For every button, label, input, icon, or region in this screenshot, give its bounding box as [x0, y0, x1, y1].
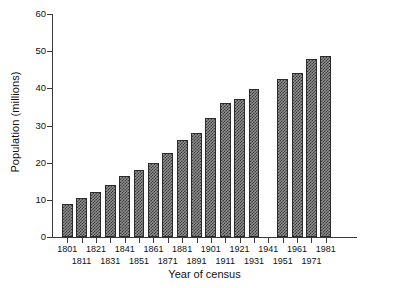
y-tick-label-40: 40 — [20, 83, 46, 92]
bar-1871 — [162, 153, 173, 237]
x-tick-1821 — [96, 238, 97, 243]
bar-1801 — [62, 204, 73, 237]
y-tick-label-0: 0 — [20, 232, 46, 241]
x-tick-1921 — [240, 238, 241, 243]
x-tick-1901 — [211, 238, 212, 243]
bar-1861 — [148, 163, 159, 237]
y-tick-label-30: 30 — [20, 121, 46, 130]
y-tick-label-50: 50 — [20, 46, 46, 55]
x-tick-1941 — [268, 238, 269, 243]
bar-1811 — [76, 198, 87, 237]
bar-1951 — [277, 79, 288, 237]
x-tick-1961 — [297, 238, 298, 243]
bar-1821 — [90, 192, 101, 237]
x-tick-1861 — [153, 238, 154, 243]
y-axis-line — [52, 14, 53, 238]
x-tick-1891 — [197, 238, 198, 243]
x-tick-1811 — [82, 238, 83, 243]
bar-1921 — [234, 99, 245, 237]
bar-1901 — [205, 118, 216, 237]
bar-chart: Population (millions) 0102030405060 1801… — [0, 0, 400, 288]
x-tick-1871 — [168, 238, 169, 243]
y-tick-40 — [47, 88, 52, 89]
x-tick-1841 — [125, 238, 126, 243]
x-tick-label-1971: 1971 — [294, 257, 328, 266]
x-tick-1851 — [139, 238, 140, 243]
bar-1851 — [134, 170, 145, 237]
x-axis-title: Year of census — [52, 268, 357, 280]
x-tick-1971 — [311, 238, 312, 243]
x-tick-1831 — [110, 238, 111, 243]
bar-1881 — [177, 140, 188, 237]
y-tick-label-20: 20 — [20, 158, 46, 167]
plot-area: 0102030405060 18011811182118311841185118… — [52, 14, 357, 238]
y-tick-20 — [47, 163, 52, 164]
bar-1831 — [105, 185, 116, 237]
x-tick-1881 — [182, 238, 183, 243]
y-tick-50 — [47, 51, 52, 52]
x-tick-1911 — [225, 238, 226, 243]
bar-1961 — [292, 73, 303, 237]
y-tick-30 — [47, 126, 52, 127]
x-tick-1801 — [67, 238, 68, 243]
x-tick-1951 — [283, 238, 284, 243]
bar-1841 — [119, 176, 130, 237]
bar-1971 — [306, 59, 317, 237]
y-tick-label-10: 10 — [20, 195, 46, 204]
bar-1931 — [249, 89, 260, 237]
y-tick-60 — [47, 14, 52, 15]
y-tick-0 — [47, 237, 52, 238]
bar-1911 — [220, 103, 231, 237]
y-tick-label-60: 60 — [20, 9, 46, 18]
x-tick-1981 — [326, 238, 327, 243]
y-tick-10 — [47, 200, 52, 201]
x-tick-label-1981: 1981 — [309, 245, 343, 254]
bar-1981 — [320, 56, 331, 237]
bar-1891 — [191, 133, 202, 237]
x-tick-1931 — [254, 238, 255, 243]
